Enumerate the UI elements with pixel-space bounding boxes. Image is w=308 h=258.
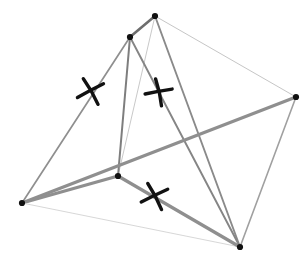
vertex-dot-bottom-right (237, 244, 243, 250)
vertex-dot-left (19, 200, 25, 206)
vertex-dot-top-apex (152, 13, 158, 19)
vertex-dot-upper-left (127, 34, 133, 40)
canvas-background (0, 0, 308, 258)
figure-root: Wireframe polyhedron with congruence tic… (0, 0, 308, 258)
vertex-dot-right (293, 94, 299, 100)
wireframe-polyhedron-svg (0, 0, 308, 258)
vertex-dot-center (115, 173, 121, 179)
